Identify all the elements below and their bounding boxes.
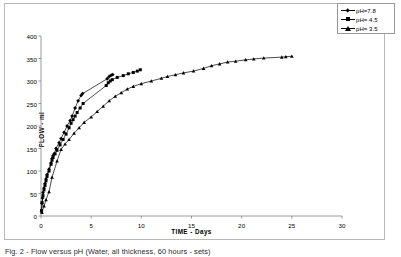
chart-canvas [0,0,401,257]
legend-marker-diamond-icon [341,6,355,15]
x-axis-tick-label: 10 [138,222,145,229]
x-axis-tick-label: 25 [288,222,295,229]
legend-item[interactable]: pH= 3.5 [341,24,392,33]
legend-label: pH= 4.5 [355,17,378,23]
x-axis-tick-label: 5 [89,222,93,229]
chart-legend: pH=7.8 pH= 4.5 pH= 3.5 [337,3,395,34]
legend-item[interactable]: pH=7.8 [341,6,392,15]
legend-label: pH=7.8 [355,8,376,14]
legend-marker-square-icon [341,15,355,24]
x-axis-tick-label: 30 [338,222,345,229]
series-ph-7-8 [40,73,115,214]
legend-item[interactable]: pH= 4.5 [341,15,392,24]
series-ph-3-5 [40,54,293,213]
legend-marker-triangle-icon [341,24,355,33]
figure-caption: Fig. 2 - Flow versus pH (Water, all thic… [5,247,397,257]
x-axis-tick-label: 0 [39,222,43,229]
x-axis-tick-label: 20 [238,222,245,229]
figure-container: 050100150200250300350400 FLOW - ml TIME … [0,0,401,257]
legend-label: pH= 3.5 [355,26,378,32]
x-axis-tick-label: 15 [188,222,195,229]
